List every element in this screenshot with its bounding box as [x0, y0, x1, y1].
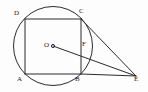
- point-label-F: F: [82, 41, 86, 48]
- geometry-figure-container: D C A B O F E: [0, 0, 148, 92]
- point-label-C: C: [79, 8, 84, 15]
- segment-CE: [81, 19, 136, 76]
- point-label-A: A: [17, 76, 22, 83]
- point-label-B: B: [75, 76, 80, 83]
- segment-OE: [53, 46, 136, 76]
- geometry-diagram-svg: [0, 0, 148, 92]
- point-label-E: E: [134, 76, 138, 83]
- point-label-D: D: [14, 10, 19, 17]
- segment-BE: [81, 74, 136, 76]
- point-label-O: O: [44, 42, 49, 49]
